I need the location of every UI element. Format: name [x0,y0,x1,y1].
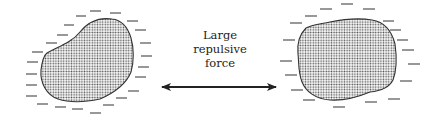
force-label: Large repulsive force [170,28,270,70]
force-label-line-1: Large [170,28,270,42]
right-particle-body [298,19,396,100]
right-particle [280,4,420,107]
left-particle-body [41,19,133,102]
force-label-line-3: force [170,56,270,70]
left-particle [26,11,152,113]
force-label-line-2: repulsive [170,42,270,56]
